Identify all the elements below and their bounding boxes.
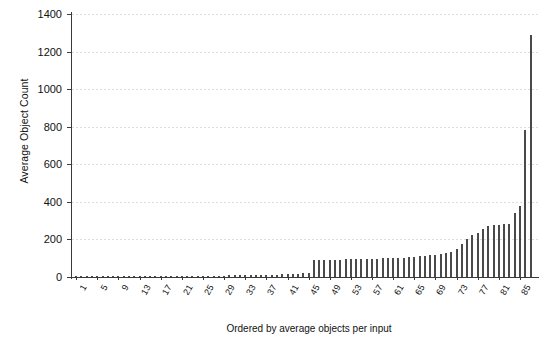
- x-axis-title: Ordered by average objects per input: [72, 323, 546, 334]
- x-tick-label: 17: [160, 283, 174, 297]
- bar: [498, 225, 500, 277]
- x-tick-mark: [182, 277, 183, 280]
- bar: [434, 255, 436, 277]
- bar-chart: Average Object Count 0200400600800100012…: [0, 0, 546, 343]
- x-tick-mark: [478, 277, 479, 280]
- bar: [514, 213, 516, 277]
- bar: [376, 259, 378, 277]
- bar: [440, 254, 442, 277]
- bar: [323, 260, 325, 277]
- bar: [360, 259, 362, 277]
- x-tick-label: 57: [371, 283, 385, 297]
- bar: [371, 259, 373, 277]
- bar: [387, 258, 389, 277]
- x-tick-label: 5: [99, 283, 110, 292]
- x-tick-label: 81: [498, 283, 512, 297]
- x-tick-mark: [414, 277, 415, 280]
- bar: [424, 256, 426, 277]
- y-tick-label: 400: [44, 196, 62, 208]
- x-tick-label: 85: [519, 283, 533, 297]
- bar: [487, 226, 489, 277]
- bar: [397, 258, 399, 277]
- x-tick-label: 9: [120, 283, 131, 292]
- y-tick-label: 800: [44, 121, 62, 133]
- bar: [524, 130, 526, 277]
- bar: [461, 244, 463, 277]
- x-tick-mark: [372, 277, 373, 280]
- x-tick-mark: [203, 277, 204, 280]
- bar: [429, 255, 431, 277]
- x-tick-label: 49: [329, 283, 343, 297]
- x-tick-mark: [309, 277, 310, 280]
- y-tick-label: 0: [56, 271, 62, 283]
- bar: [477, 233, 479, 277]
- bar: [355, 259, 357, 277]
- x-tick-label: 29: [223, 283, 237, 297]
- bar: [466, 239, 468, 277]
- x-tick-label: 53: [350, 283, 364, 297]
- x-tick-mark: [266, 277, 267, 280]
- bar: [445, 253, 447, 277]
- bar: [339, 260, 341, 277]
- x-tick-label: 45: [308, 283, 322, 297]
- bar: [334, 260, 336, 277]
- x-tick-label: 33: [244, 283, 258, 297]
- x-tick-label: 61: [392, 283, 406, 297]
- x-tick-mark: [97, 277, 98, 280]
- x-tick-label: 37: [265, 283, 279, 297]
- x-tick-label: 21: [181, 283, 195, 297]
- y-tick-label: 1000: [38, 83, 62, 95]
- bar: [329, 260, 331, 277]
- bar: [493, 225, 495, 277]
- x-tick-label: 25: [202, 283, 216, 297]
- bar: [318, 260, 320, 277]
- bar: [403, 258, 405, 277]
- bar: [413, 257, 415, 277]
- bar: [482, 229, 484, 277]
- x-tick-mark: [393, 277, 394, 280]
- bar: [450, 252, 452, 277]
- x-tick-mark: [351, 277, 352, 280]
- y-axis-ticks: 0200400600800100012001400: [0, 0, 70, 343]
- bar: [456, 249, 458, 277]
- x-tick-mark: [499, 277, 500, 280]
- x-tick-mark: [330, 277, 331, 280]
- x-tick-label: 73: [456, 283, 470, 297]
- x-tick-label: 69: [434, 283, 448, 297]
- bar: [471, 235, 473, 277]
- bar: [366, 259, 368, 277]
- x-tick-mark: [118, 277, 119, 280]
- x-tick-mark: [435, 277, 436, 280]
- x-tick-mark: [161, 277, 162, 280]
- bar: [382, 258, 384, 277]
- x-tick-mark: [457, 277, 458, 280]
- x-tick-mark: [520, 277, 521, 280]
- bar: [519, 206, 521, 277]
- bar: [345, 259, 347, 277]
- plot-area: [72, 14, 538, 277]
- x-tick-mark: [245, 277, 246, 280]
- bar: [419, 256, 421, 277]
- x-axis-ticks: 1591317212529333741454953576165697377818…: [72, 277, 538, 323]
- x-tick-label: 1: [78, 283, 89, 292]
- bar: [392, 258, 394, 277]
- x-tick-mark: [288, 277, 289, 280]
- bar: [350, 259, 352, 277]
- x-tick-label: 13: [139, 283, 153, 297]
- x-tick-label: 41: [286, 283, 300, 297]
- x-tick-mark: [140, 277, 141, 280]
- bar-series: [72, 14, 538, 277]
- bar: [313, 260, 315, 277]
- x-tick-mark: [76, 277, 77, 280]
- y-axis-line: [71, 12, 72, 279]
- x-tick-label: 77: [477, 283, 491, 297]
- bar: [530, 35, 532, 277]
- y-tick-label: 1200: [38, 46, 62, 58]
- x-tick-label: 65: [413, 283, 427, 297]
- y-tick-label: 200: [44, 233, 62, 245]
- bar: [408, 257, 410, 277]
- x-tick-mark: [224, 277, 225, 280]
- y-tick-label: 600: [44, 158, 62, 170]
- y-tick-label: 1400: [38, 8, 62, 20]
- bar: [508, 224, 510, 277]
